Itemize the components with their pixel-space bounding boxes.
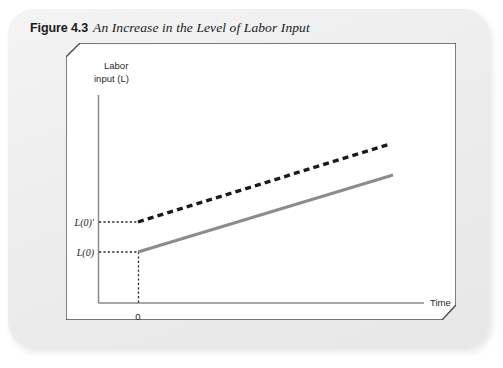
figure-caption: An Increase in the Level of Labor Input — [93, 20, 310, 35]
figure-number: Figure 4.3 — [30, 21, 88, 35]
frame-outline — [66, 43, 456, 320]
figure-title: Figure 4.3An Increase in the Level of La… — [30, 20, 310, 36]
plot-frame — [66, 43, 456, 320]
figure-page: Figure 4.3An Increase in the Level of La… — [0, 0, 503, 368]
